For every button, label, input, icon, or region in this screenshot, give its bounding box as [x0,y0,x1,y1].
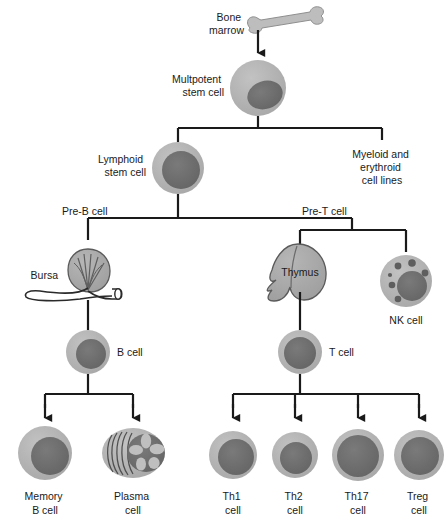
cell-nucleus [401,437,439,475]
memory-b-cell-label: Memory B cell [25,490,66,516]
bone-icon [248,7,324,34]
pre-t-cell-label: Pre-T cell [302,205,347,217]
treg-cell-node: Treg cell [394,430,444,516]
cell-nucleus [76,339,106,369]
nk-cell-label: NK cell [389,314,422,326]
thymus-organ-node: Thymus [267,244,326,330]
th2-cell-label: Th2 cell [284,490,305,516]
multipotent-stem-cell-label: Multpotent stem cell [172,73,224,98]
bracket-bcell-split [45,374,133,418]
bracket-lymphoid-split [88,194,406,252]
th1-cell-label: Th1 cell [222,490,243,516]
cell-nucleus [280,442,312,474]
th1-cell-node: Th1 cell [209,431,257,516]
pre-b-cell-label: Pre-B cell [62,205,108,217]
cell-nucleus [337,435,379,477]
b-cell-label: B cell [117,346,143,358]
plasma-cell-node: Plasma cell [102,428,165,516]
cell-nucleus [397,271,427,301]
cell-nucleus [162,151,200,189]
bursa-label: Bursa [31,269,59,281]
memory-b-cell-node: Memory B cell [18,426,72,516]
lymphoid-stem-cell-label: Lymphoid stem cell [98,153,146,178]
lymphoid-stem-cell-node: Lymphoid stem cell [98,142,204,194]
t-cell-node: T cell [278,330,354,374]
multipotent-stem-cell-node: Multpotent stem cell [172,60,286,116]
bracket-multipotent-split [178,116,382,142]
treg-cell-label: Treg cell [407,490,431,516]
cell-nucleus [284,337,316,369]
myeloid-erythroid-label: Myeloid and erythroid cell lines [352,148,412,186]
b-cell-node: B cell [66,330,143,374]
thymus-label: Thymus [281,266,318,278]
plasma-cell-label: Plasma cell [114,490,152,516]
bone-marrow-label: Bone marrow [209,11,244,36]
th17-cell-label: Th17 cell [345,490,372,516]
th17-cell-node: Th17 cell [332,429,384,516]
bone-marrow-node: Bone marrow [209,7,323,53]
nk-cell-node: NK cell [380,255,432,326]
t-cell-label: T cell [329,346,354,358]
bracket-tcell-split [233,374,419,418]
cell-nucleus [218,439,254,475]
th2-cell-node: Th2 cell [272,432,318,516]
bursa-organ-node: Bursa [26,249,122,330]
lineage-diagram: Bone marrow Multpotent stem cell Lymphoi… [0,0,448,528]
cell-nucleus [31,437,69,475]
